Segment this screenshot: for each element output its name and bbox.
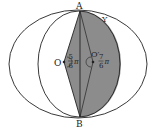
- angle-O-pi: π: [73, 58, 79, 66]
- label-A: A: [75, 1, 83, 11]
- point-O-prime-dot: [92, 61, 95, 64]
- point-O-dot: [63, 61, 66, 64]
- label-O: O: [54, 58, 61, 68]
- angle-O-numerator: 5: [69, 53, 73, 61]
- angle-O-prime-denominator: 6: [99, 62, 104, 70]
- label-Y: Y: [101, 15, 108, 24]
- diagram: A B O O′ Y 5 6 π 7 6 π: [0, 0, 152, 129]
- angle-O-prime-pi: π: [104, 58, 110, 66]
- angle-O-denominator: 6: [69, 62, 74, 70]
- label-B: B: [76, 119, 83, 129]
- angle-O-prime-numerator: 7: [99, 53, 103, 61]
